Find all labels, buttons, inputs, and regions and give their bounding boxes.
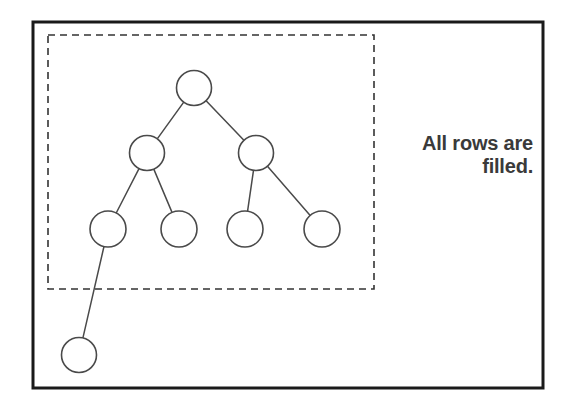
tree-node (130, 136, 165, 171)
outer-border (33, 22, 543, 388)
tree-nodes (62, 71, 341, 373)
tree-edge (154, 169, 172, 212)
tree-edge (267, 166, 310, 215)
tree-edge (83, 247, 104, 338)
filled-rows-region-outline (48, 35, 374, 289)
tree-diagram-canvas (0, 0, 566, 411)
tree-node (239, 136, 274, 171)
tree-node (227, 211, 263, 247)
tree-node (304, 211, 340, 247)
tree-node (161, 211, 197, 247)
tree-edge (157, 102, 183, 139)
tree-node (62, 338, 97, 373)
tree-edge (116, 169, 139, 213)
caption-text: All rows are filled. (373, 132, 533, 178)
tree-edge (206, 101, 244, 141)
tree-edge (248, 170, 254, 211)
figure-page: All rows are filled. (0, 0, 566, 411)
tree-node (177, 71, 212, 106)
tree-node (90, 211, 126, 247)
